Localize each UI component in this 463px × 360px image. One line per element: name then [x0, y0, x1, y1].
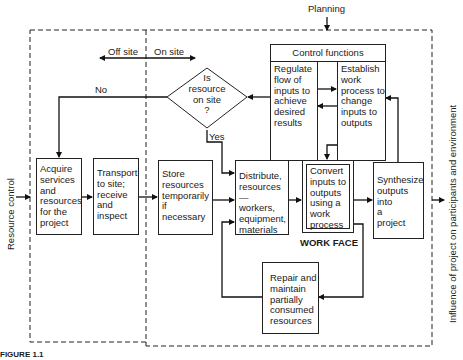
- establish-box: Establish work process to change inputs …: [337, 61, 386, 161]
- influence-label: Influence of project on participants and…: [447, 105, 458, 323]
- repair-box: Repair and maintain partially consumed r…: [262, 262, 319, 334]
- distribute-text: Distribute, resources— workers, equipmen…: [239, 171, 288, 236]
- regulate-box: Regulate flow of inputs to achieve desir…: [270, 61, 318, 161]
- figure-caption: FIGURE 1.1: [0, 349, 44, 360]
- planning-label: Planning: [308, 3, 345, 14]
- no-label: No: [95, 84, 107, 95]
- regulate-text: Regulate flow of inputs to achieve desir…: [274, 64, 312, 129]
- store-box: Store resources temporarily if necessary: [158, 160, 213, 235]
- transport-text: Transport to site; receive and inspect: [97, 168, 137, 222]
- yes-label: Yes: [209, 131, 225, 142]
- convert-box-inner: Convert inputs to outputs using a work p…: [306, 164, 350, 229]
- distribute-box: Distribute, resources— workers, equipmen…: [235, 160, 289, 235]
- control-functions-title: Control functions: [271, 48, 385, 59]
- off-site-label: Off site: [108, 46, 138, 57]
- synthesize-box: Synthesize outputs into a project: [373, 162, 424, 239]
- control-functions-header: Control functions: [270, 44, 386, 62]
- repair-text: Repair and maintain partially consumed r…: [270, 273, 316, 327]
- establish-text: Establish work process to change inputs …: [341, 64, 385, 129]
- convert-box-outer: Convert inputs to outputs using a work p…: [302, 160, 354, 233]
- synthesize-text: Synthesize outputs into a project: [377, 175, 423, 229]
- convert-text: Convert inputs to outputs using a work p…: [310, 166, 346, 231]
- work-face-label: WORK FACE: [300, 237, 358, 248]
- store-text: Store resources temporarily if necessary: [162, 169, 209, 223]
- acquire-box: Acquire services and resources for the p…: [36, 158, 82, 235]
- transport-box: Transport to site; receive and inspect: [93, 158, 139, 235]
- on-site-label: On site: [154, 46, 184, 57]
- resource-control-label: Resource control: [5, 178, 16, 250]
- acquire-text: Acquire services and resources for the p…: [40, 164, 82, 229]
- decision-text: Is resource on site ?: [182, 73, 232, 116]
